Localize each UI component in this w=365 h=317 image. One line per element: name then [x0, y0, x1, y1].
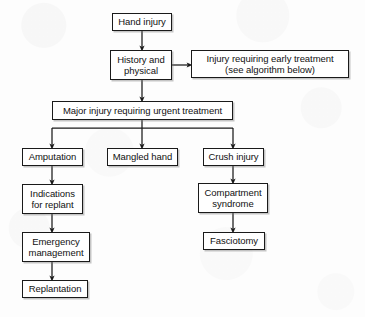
node-major-injury[interactable]: Major injury requiring urgent treatment [52, 101, 233, 120]
node-fasciotomy[interactable]: Fasciotomy [203, 232, 265, 250]
flowchart-canvas: Hand injury History and physical Injury … [0, 0, 365, 317]
node-early-treatment[interactable]: Injury requiring early treatment (see al… [191, 50, 349, 78]
node-replantation[interactable]: Replantation [22, 280, 88, 298]
node-mangled-hand[interactable]: Mangled hand [107, 148, 178, 166]
node-compartment-syndrome[interactable]: Compartment syndrome [198, 183, 268, 213]
node-emergency-management[interactable]: Emergency management [22, 232, 90, 262]
node-crush-injury[interactable]: Crush injury [203, 148, 264, 166]
node-hand-injury[interactable]: Hand injury [112, 13, 172, 31]
node-history-physical[interactable]: History and physical [110, 50, 172, 80]
node-indications-for-replant[interactable]: Indications for replant [22, 184, 83, 214]
node-amputation[interactable]: Amputation [22, 148, 83, 166]
